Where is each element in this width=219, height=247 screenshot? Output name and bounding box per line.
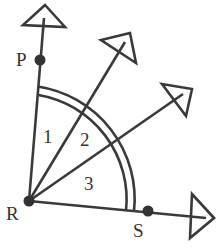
arrowhead-middle-1-icon: [101, 33, 136, 63]
angle-diagram: P R S 1 2 3: [0, 0, 219, 247]
label-s: S: [133, 220, 144, 241]
point-r: [24, 196, 35, 207]
label-p: P: [16, 49, 27, 70]
ray-middle-2: [29, 94, 183, 201]
label-angle-3: 3: [84, 173, 94, 194]
ray-rp: [29, 18, 44, 201]
ray-rs: [29, 201, 206, 218]
point-s: [143, 206, 154, 217]
label-angle-1: 1: [43, 126, 53, 147]
ray-middle-1: [29, 42, 125, 201]
label-r: R: [6, 203, 19, 224]
angle-arc-inner: [39, 95, 127, 211]
label-angle-2: 2: [80, 129, 90, 150]
arrowhead-middle-2-icon: [162, 84, 192, 116]
point-p: [35, 55, 46, 66]
